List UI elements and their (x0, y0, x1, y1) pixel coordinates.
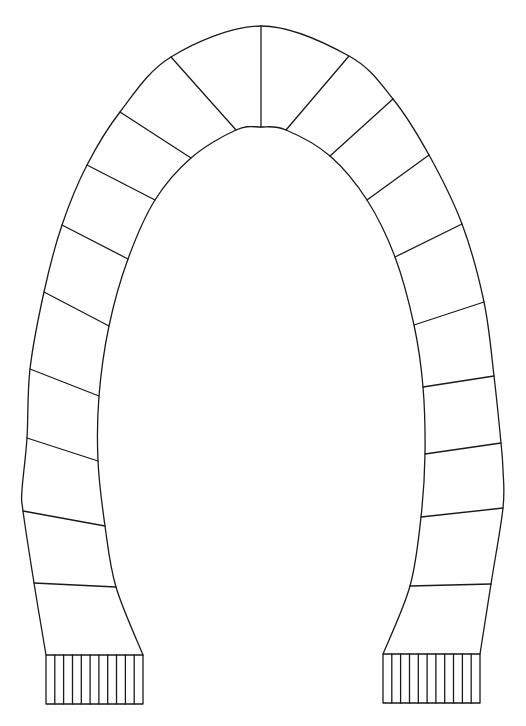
scarf-outer-edge (21, 26, 503, 655)
stripe-line (62, 225, 128, 259)
stripe-line (330, 99, 393, 156)
stripe-line (27, 438, 98, 461)
stripe-line (423, 376, 494, 387)
scarf-canvas (0, 0, 526, 726)
stripe-line (23, 511, 105, 526)
right-fringe (383, 654, 480, 703)
scarf-inner-edge (97, 127, 425, 655)
stripe-line (425, 443, 501, 454)
scarf-stripe-lines (23, 26, 503, 587)
stripe-line (421, 508, 503, 517)
stripe-line (87, 165, 155, 200)
stripe-line (171, 57, 236, 130)
stripe-line (120, 112, 191, 158)
stripe-line (414, 302, 484, 325)
left-fringe (46, 655, 143, 704)
stripe-line (395, 224, 462, 257)
stripe-line (367, 155, 429, 200)
stripe-line (30, 369, 99, 396)
scarf-drawing (0, 0, 526, 726)
stripe-line (44, 292, 109, 326)
stripe-line (34, 583, 116, 587)
fringe-box (46, 655, 143, 704)
fringe-box (383, 654, 480, 703)
stripe-line (410, 584, 491, 586)
stripe-line (286, 56, 349, 130)
